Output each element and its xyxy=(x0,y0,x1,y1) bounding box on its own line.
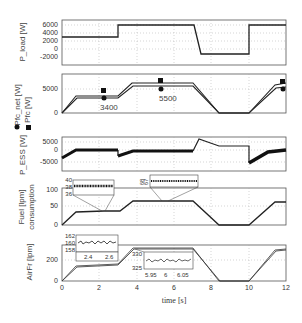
square-marker xyxy=(280,79,285,84)
y-axis-label: Fuel [lpm] xyxy=(17,189,26,224)
panel-pfc: 3400 5500 5000 0 Pfc_net [W] Pfc [W] xyxy=(13,74,286,130)
y-axis-label: AirFr [lpm] xyxy=(25,244,34,281)
tick: 0 xyxy=(54,277,58,284)
tick: 100 xyxy=(46,186,58,193)
square-marker xyxy=(101,88,106,93)
inset-tick: 67 xyxy=(143,178,149,185)
inset-tick: 2.6 xyxy=(105,254,114,260)
annotation-5500: 5500 xyxy=(159,94,177,103)
y-axis-label: consumption xyxy=(27,184,36,229)
tick: 5000 xyxy=(42,85,58,92)
circle-marker xyxy=(281,87,286,92)
tick: 6000 xyxy=(42,21,58,28)
inset-tick: 160 xyxy=(65,240,76,246)
panel-airfr: 162 160 158 2.4 2.6 330 325 5.95 6 6.05 … xyxy=(25,233,290,305)
inset-tick: 158 xyxy=(65,247,76,253)
x-tick: 8 xyxy=(209,284,213,291)
legend-square-icon xyxy=(26,125,31,130)
y-axis-label: Pfc [W] xyxy=(23,97,32,123)
panel-fuel: 40 38 36 68 67 100 50 0 Fuel [lpm] consu… xyxy=(17,175,286,230)
inset-tick: 6.05 xyxy=(177,272,189,278)
inset-tick: 38 xyxy=(65,184,72,190)
tick: 0 xyxy=(54,45,58,52)
panel-p-ess: 5000 0 -5000 P_ESS [W] xyxy=(18,135,286,175)
y-axis-label: P_load [W] xyxy=(18,22,27,61)
x-tick: 10 xyxy=(245,284,253,291)
x-tick: 6 xyxy=(172,284,176,291)
circle-marker xyxy=(102,96,107,101)
inset-tick: 330 xyxy=(132,251,143,257)
inset-fuel-a xyxy=(73,180,114,195)
panel-p-load: 6000 4000 2000 0 -2000 P_load [W] xyxy=(18,20,286,65)
tick: 5000 xyxy=(42,138,58,145)
annotation-3400: 3400 xyxy=(100,103,118,112)
inset-tick: 325 xyxy=(132,265,143,271)
inset-tick: 36 xyxy=(65,191,72,197)
circle-marker xyxy=(159,87,164,92)
inset-tick: 162 xyxy=(65,233,76,239)
inset-tick: 40 xyxy=(65,177,72,183)
tick: 2000 xyxy=(42,37,58,44)
x-tick: 0 xyxy=(60,284,64,291)
tick: -2000 xyxy=(40,53,58,60)
x-axis-label: time [s] xyxy=(162,296,187,305)
tick: 50 xyxy=(50,202,58,209)
figure: 6000 4000 2000 0 -2000 P_load [W] 3400 5… xyxy=(0,0,302,323)
tick: 0 xyxy=(54,109,58,116)
tick: 200 xyxy=(46,256,58,263)
tick: 0 xyxy=(54,221,58,228)
tick: -5000 xyxy=(40,158,58,165)
tick: 0 xyxy=(54,146,58,153)
x-tick: 4 xyxy=(135,284,139,291)
inset-tick: 5.95 xyxy=(145,272,157,278)
square-marker xyxy=(158,78,163,83)
tick: 4000 xyxy=(42,29,58,36)
x-tick: 2 xyxy=(97,284,101,291)
x-tick: 12 xyxy=(282,284,290,291)
y-axis-label: P_ESS [W] xyxy=(18,135,27,175)
y-axis-label: Pfc_net [W] xyxy=(13,84,22,125)
inset-tick: 2.4 xyxy=(84,254,93,260)
